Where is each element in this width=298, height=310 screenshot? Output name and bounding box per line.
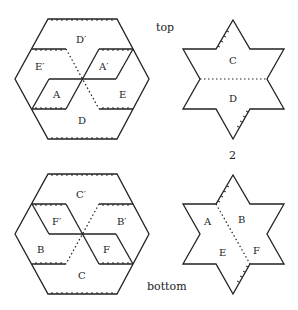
caption-bottom: bottom [147,280,187,293]
label-b: B [37,244,44,255]
label-c: C [229,55,237,66]
fold-diagram: D′ E′ A′ A E D top C D 2 [0,0,298,310]
caption-top: top [156,21,174,34]
label-e: E [219,247,226,258]
label-b: B [238,214,245,225]
label-d: D [78,115,86,126]
label-f: F [103,244,110,255]
label-a: A [203,216,212,227]
step-number: 2 [229,149,236,162]
label-a-prime: A′ [98,61,109,72]
bottom-star: A B E F [183,175,284,294]
label-f-prime: F′ [52,216,62,227]
label-c-prime: C′ [76,189,87,200]
label-e-prime: E′ [35,61,45,72]
label-e: E [119,89,126,100]
label-d-prime: D′ [76,34,87,45]
label-f: F [253,245,260,256]
label-a: A [52,89,61,100]
top-hexagon: D′ E′ A′ A E D [15,19,149,139]
label-c: C [78,270,86,281]
top-star: C D [183,20,284,139]
bottom-hexagon: C′ F′ B′ B F C [15,174,149,294]
label-d: D [229,93,237,104]
label-b-prime: B′ [117,216,127,227]
